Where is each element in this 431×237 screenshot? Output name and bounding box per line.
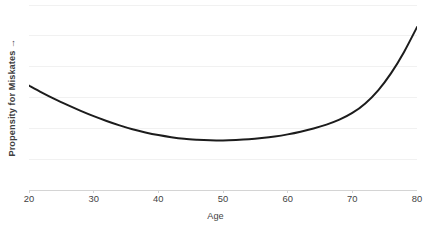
x-axis-tick-label: 50 [218, 193, 228, 204]
x-axis-tick-label: 20 [24, 193, 34, 204]
series-line [29, 27, 417, 140]
x-axis-label-text: Age [207, 211, 223, 221]
plot-area [29, 4, 417, 191]
x-axis-tick-label: 60 [282, 193, 292, 204]
y-axis-label-text: Propensity for Miskates → [8, 39, 17, 157]
x-axis-tick-label: 40 [153, 193, 163, 204]
x-axis-ticks: 20304050607080 [0, 193, 431, 209]
y-axis-label: Propensity for Miskates → [0, 0, 26, 195]
plot-svg [29, 4, 417, 204]
gridlines-group [29, 5, 417, 190]
x-axis-label: Age [0, 211, 431, 221]
x-axis-tick-label: 30 [88, 193, 98, 204]
x-axis-tick-label: 70 [347, 193, 357, 204]
chart-container: Propensity for Miskates → 20304050607080… [0, 0, 431, 237]
data-series-group [29, 27, 417, 140]
x-axis-tick-label: 80 [412, 193, 422, 204]
